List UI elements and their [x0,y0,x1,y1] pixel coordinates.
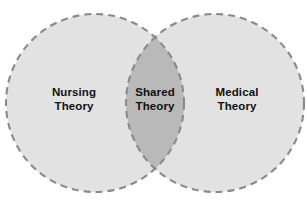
right-set-label-line1: Medical [187,85,287,99]
venn-diagram: Nursing Theory Shared Theory Medical The… [0,0,307,207]
left-set-label: Nursing Theory [24,85,124,113]
left-set-label-line1: Nursing [24,85,124,99]
left-set-label-line2: Theory [24,99,124,113]
right-set-label-line2: Theory [187,99,287,113]
intersection-label-line2: Theory [118,99,192,113]
intersection-label-line1: Shared [118,85,192,99]
intersection-label: Shared Theory [118,85,192,113]
right-set-label: Medical Theory [187,85,287,113]
